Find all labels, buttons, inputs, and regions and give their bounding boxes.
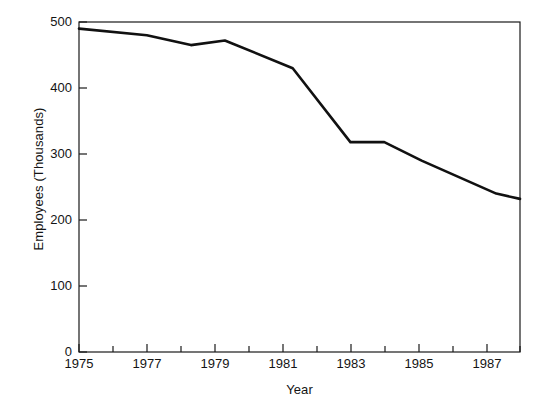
x-tick-label-1985: 1985 xyxy=(389,356,449,371)
x-tick-label-1981: 1981 xyxy=(253,356,313,371)
x-axis-title: Year xyxy=(79,382,520,397)
x-tick-label-1979: 1979 xyxy=(185,356,245,371)
x-tick-label-1987: 1987 xyxy=(457,356,517,371)
x-tick-label-1977: 1977 xyxy=(117,356,177,371)
x-axis-ticks xyxy=(79,344,520,352)
chart-figure: 500 400 300 200 100 0 1975 1977 1979 198… xyxy=(0,0,559,414)
x-tick-label-1983: 1983 xyxy=(321,356,381,371)
x-tick-label-1975: 1975 xyxy=(49,356,109,371)
data-series-line xyxy=(79,29,520,199)
plot-frame xyxy=(79,22,520,352)
y-axis-title: Employees (Thousands) xyxy=(31,14,46,344)
y-axis-ticks xyxy=(79,22,87,352)
line-chart-plot xyxy=(0,0,559,414)
